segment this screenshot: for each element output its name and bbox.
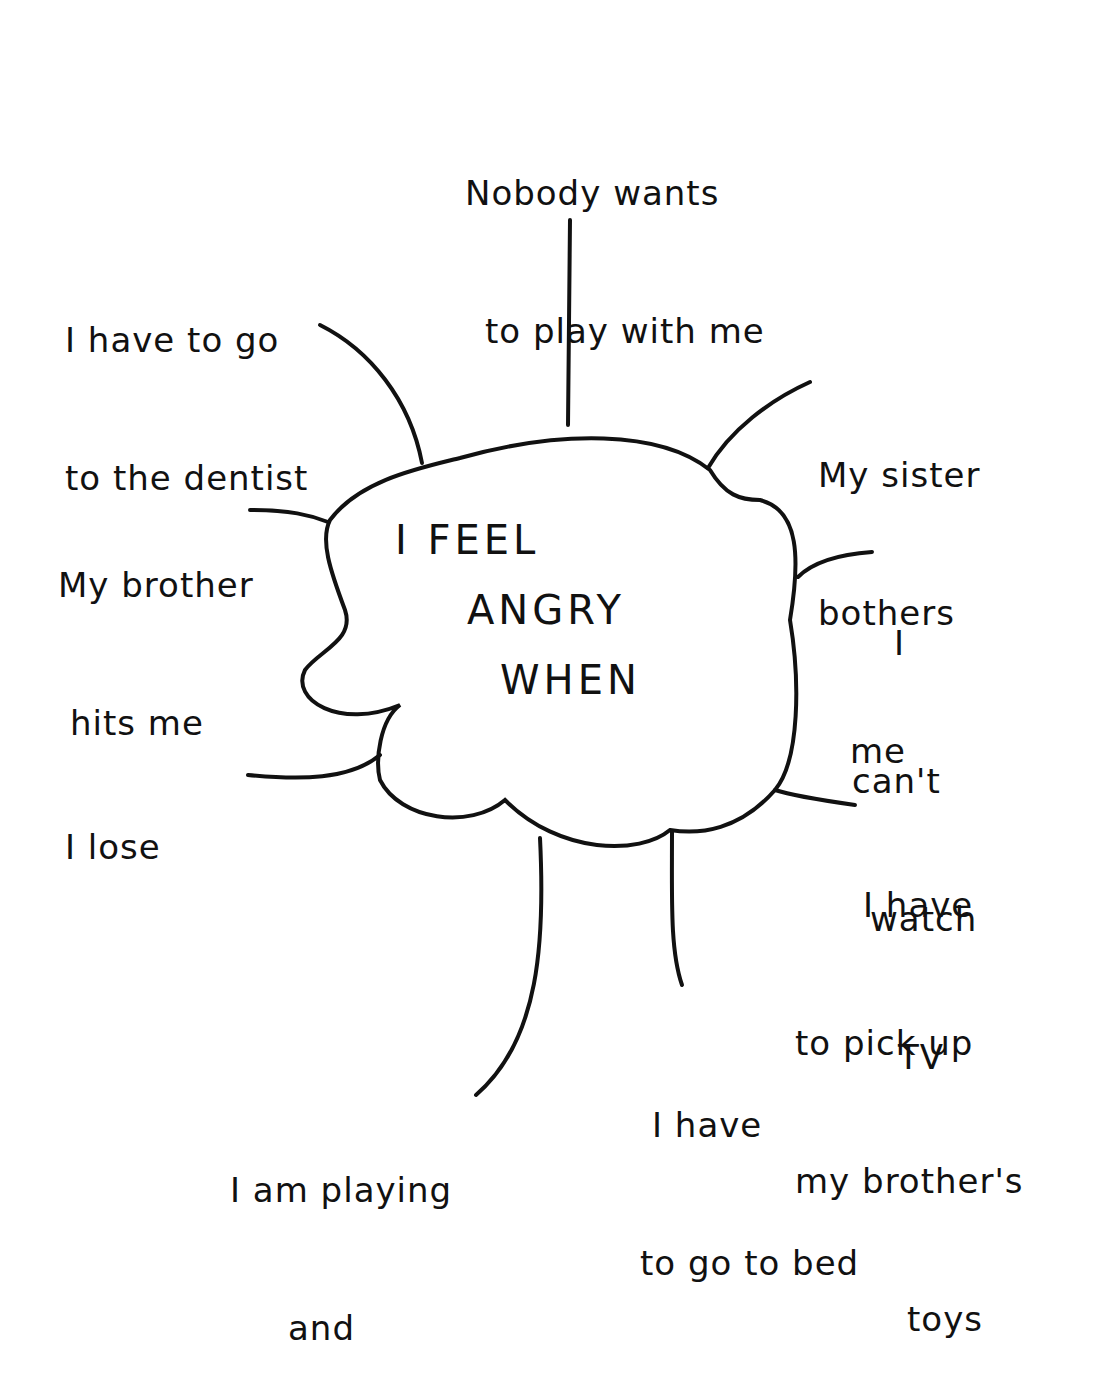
label-line: I: [852, 620, 977, 666]
label-line: and: [230, 1305, 465, 1351]
label-line: I lose: [65, 824, 161, 870]
branch-nobody: Nobody wants to play with me: [465, 78, 765, 400]
label-line: My brother: [58, 562, 254, 608]
label-line: I am playing: [230, 1167, 465, 1213]
center-label: I FEEL ANGRY WHEN: [395, 505, 641, 715]
label-line: I have: [640, 1102, 859, 1148]
label-line: I have to go: [65, 317, 308, 363]
label-line: My sister: [818, 452, 980, 498]
label-line: I have: [795, 882, 1024, 928]
label-line: Nobody wants: [465, 170, 765, 216]
center-line-3: WHEN: [395, 645, 641, 715]
branch-lose: I lose: [65, 732, 161, 916]
label-line: to play with me: [465, 308, 765, 354]
branch-bed: I have to go to bed early: [640, 1010, 859, 1375]
label-line: to go to bed: [640, 1240, 859, 1286]
center-line-1: I FEEL: [395, 505, 641, 575]
branch-interrupts: I am playing and my brother interrupts m…: [230, 1075, 465, 1375]
center-line-2: ANGRY: [395, 575, 641, 645]
